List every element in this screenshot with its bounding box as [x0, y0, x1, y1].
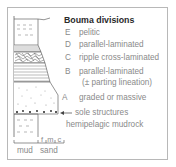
division-b-shape: [14, 63, 50, 82]
division-e-label: pelitic: [79, 28, 100, 37]
division-b-letter: B: [65, 67, 70, 76]
hemipelagic-shape: [14, 114, 38, 137]
division-a-shape: [14, 82, 58, 114]
division-b-label: parallel-laminated: [79, 67, 144, 76]
division-c-letter: C: [65, 53, 71, 62]
division-d-label: parallel-laminated: [79, 40, 144, 49]
sole-structures-label: sole structures: [75, 108, 128, 117]
mud-label: mud: [17, 146, 33, 155]
division-a-letter: A: [62, 93, 67, 102]
hemipelagic-label: hemipelagic mudrock: [66, 120, 143, 129]
division-a-label: graded or massive: [79, 93, 146, 102]
division-e-letter: E: [65, 28, 70, 37]
division-c-label: ripple cross-laminated: [79, 53, 159, 62]
division-b-label2: (± parting lineation): [82, 78, 152, 87]
division-d-shape: [14, 45, 41, 52]
grain-ticks-label: f m c: [41, 135, 62, 144]
legend-title: Bouma divisions: [64, 15, 134, 25]
division-e-shape: [14, 18, 50, 45]
sole-arrow-icon: [60, 111, 72, 115]
division-d-letter: D: [65, 40, 71, 49]
division-c-shape: [14, 52, 45, 63]
sand-label: sand: [40, 146, 58, 155]
